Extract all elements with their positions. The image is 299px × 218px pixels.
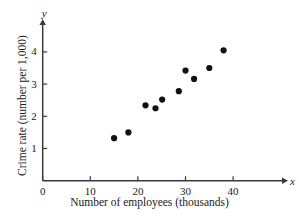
x-axis-variable-label: x (290, 176, 295, 187)
data-point (125, 129, 131, 135)
data-point (159, 96, 165, 102)
data-point (191, 76, 197, 82)
axis-ticks-group (43, 52, 233, 181)
y-axis-title: Crime rate (number per 1,000) (16, 35, 28, 176)
data-point (182, 67, 188, 73)
y-axis-variable-label: y (42, 8, 47, 19)
data-point (142, 102, 148, 108)
x-axis-title: Number of employees (thousands) (0, 196, 299, 208)
x-axis-arrowhead (282, 178, 288, 184)
data-points-group (111, 47, 227, 141)
scatter-plot-figure: y x 010203040 1234 Number of employees (… (0, 0, 299, 218)
data-point (176, 88, 182, 94)
data-point (206, 65, 212, 71)
y-axis-arrowhead (40, 19, 46, 25)
data-point (220, 47, 226, 53)
data-point (111, 135, 117, 141)
data-point (152, 105, 158, 111)
